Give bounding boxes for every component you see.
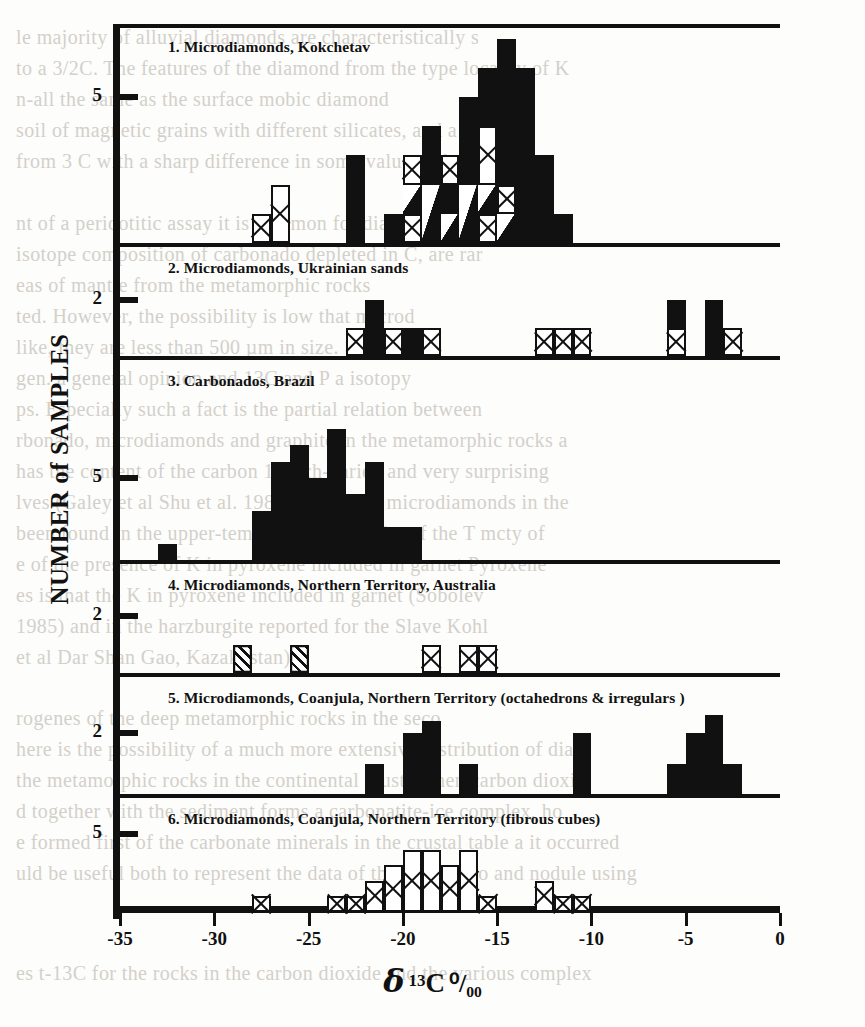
bar-segment-cross	[535, 881, 554, 912]
x-tick-label-0: -35	[107, 928, 132, 950]
bar-segment-solid	[686, 733, 705, 794]
bar-segment-solid	[441, 185, 460, 214]
bar-segment-cross	[478, 214, 497, 243]
bar-segment-tri	[403, 185, 422, 214]
bar-segment-cross	[384, 865, 403, 912]
bar-segment-cross	[573, 896, 592, 912]
figure-isotope-histograms: 1. Microdiamonds, Kokchetav2. Microdiamo…	[0, 0, 865, 1027]
histogram-bar	[573, 733, 592, 794]
histogram-bar	[478, 896, 497, 912]
histogram-panel-2: 2. Microdiamonds, Ukrainian sands	[120, 243, 780, 356]
bar-segment-solid	[705, 715, 724, 794]
bar-segment-tri	[459, 185, 478, 243]
panel-title-2: 2. Microdiamonds, Ukrainian sands	[168, 259, 408, 277]
bar-segment-hatch	[233, 645, 252, 674]
bar-segment-solid	[384, 527, 403, 560]
y-tick-5	[113, 730, 138, 736]
histogram-bar	[422, 126, 441, 243]
bar-segment-cross	[346, 328, 365, 356]
delta-symbol: δ	[383, 962, 404, 1000]
histogram-panel-5: 5. Microdiamonds, Coanjula, Northern Ter…	[120, 673, 780, 794]
histogram-bar	[459, 97, 478, 243]
bar-segment-solid	[459, 764, 478, 795]
bar-segment-solid	[252, 511, 271, 560]
histogram-bar	[573, 896, 592, 912]
histogram-panel-3: 3. Carbonados, Brazil	[120, 356, 780, 560]
x-tick-label-5: -10	[579, 928, 604, 950]
y-tick-6	[113, 831, 138, 837]
bar-segment-tri	[441, 214, 460, 243]
histogram-bar	[365, 764, 384, 795]
histogram-bar	[384, 328, 403, 356]
histogram-bar	[327, 896, 346, 912]
y-tick-label-5: 2	[68, 720, 102, 742]
bar-segment-cross	[252, 214, 271, 243]
bar-segment-solid	[365, 300, 384, 356]
histogram-bar	[422, 850, 441, 912]
bar-segment-cross	[403, 214, 422, 243]
bar-segment-cross	[365, 881, 384, 912]
histogram-bar	[403, 850, 422, 912]
x-tick-label-1: -30	[202, 928, 227, 950]
x-tick-label-4: -15	[484, 928, 509, 950]
bar-segment-solid	[478, 68, 497, 126]
bar-segment-tri	[478, 185, 497, 214]
bar-segment-solid	[459, 97, 478, 185]
bar-segment-cross	[327, 896, 346, 912]
x-tick-label-2: -25	[296, 928, 321, 950]
histogram-bar	[535, 155, 554, 243]
histogram-bar	[271, 185, 290, 243]
panel-title-4: 4. Microdiamonds, Northern Territory, Au…	[168, 576, 496, 594]
bar-segment-cross	[384, 328, 403, 356]
histogram-bar	[705, 715, 724, 794]
y-axis-line	[113, 24, 120, 919]
bar-segment-cross	[422, 328, 441, 356]
bar-segment-solid	[158, 544, 177, 560]
x-tick-2	[308, 913, 311, 926]
bar-segment-cross	[459, 645, 478, 674]
y-tick-2	[113, 297, 138, 303]
y-tick-1	[113, 94, 138, 100]
bar-segment-cross	[478, 126, 497, 184]
bar-segment-solid	[403, 733, 422, 794]
bar-segment-solid	[403, 328, 422, 356]
histogram-bar	[422, 721, 441, 794]
histogram-bar	[535, 328, 554, 356]
histogram-bar	[459, 645, 478, 674]
bar-segment-cross	[554, 328, 573, 356]
x-axis-title: δ 13C ⁰/₀₀	[0, 962, 865, 1000]
histogram-bar	[686, 733, 705, 794]
x-tick-6	[685, 913, 688, 926]
histogram-bar	[516, 68, 535, 243]
bar-segment-cross	[478, 645, 497, 674]
histogram-bar	[497, 39, 516, 243]
y-tick-label-1: 5	[68, 84, 102, 106]
histogram-bar	[365, 881, 384, 912]
histogram-bar	[327, 429, 346, 560]
bar-segment-solid	[422, 126, 441, 184]
histogram-bar	[535, 881, 554, 912]
bar-segment-cross	[478, 896, 497, 912]
histogram-bar	[271, 462, 290, 560]
bar-segment-cross	[403, 155, 422, 184]
histogram-bar	[554, 214, 573, 243]
y-axis-title: NUMBER of SAMPLES	[46, 249, 74, 689]
bar-segment-solid	[422, 721, 441, 794]
histogram-bar	[252, 896, 271, 912]
bar-segment-hatch	[290, 645, 309, 674]
histogram-bar	[573, 328, 592, 356]
x-tick-label-7: 0	[775, 928, 785, 950]
bar-segment-solid	[290, 445, 309, 560]
histogram-bar	[667, 764, 686, 795]
histogram-bar	[478, 68, 497, 243]
x-tick-label-3: -20	[390, 928, 415, 950]
bar-segment-cross	[422, 850, 441, 912]
bar-segment-solid	[384, 214, 403, 243]
bar-segment-solid	[667, 300, 686, 328]
x-tick-1	[213, 913, 216, 926]
bar-segment-solid	[309, 478, 328, 560]
histogram-bar	[365, 300, 384, 356]
histogram-bar	[384, 527, 403, 560]
bar-segment-cross	[573, 328, 592, 356]
bar-segment-cross	[723, 328, 742, 356]
